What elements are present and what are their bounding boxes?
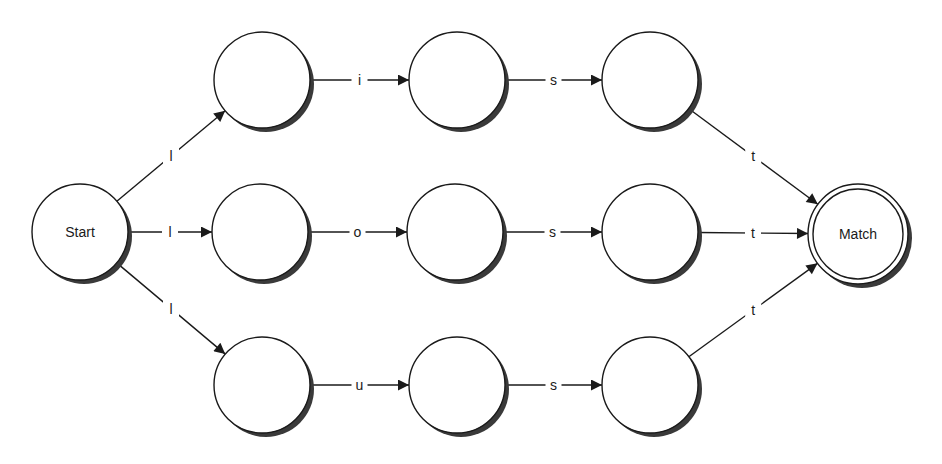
transition-edge: l bbox=[117, 263, 226, 354]
node-circle bbox=[214, 32, 310, 128]
start-state-node: Start bbox=[32, 184, 132, 284]
transition-edge: t bbox=[698, 224, 808, 242]
transition-edge: t bbox=[689, 263, 818, 356]
transition-edge: s bbox=[505, 376, 602, 394]
state-node bbox=[602, 32, 702, 132]
state-node bbox=[409, 337, 509, 437]
transition-label: t bbox=[751, 225, 755, 241]
node-circle bbox=[212, 184, 308, 280]
transition-label: s bbox=[550, 72, 557, 88]
node-circle bbox=[602, 32, 698, 128]
state-node bbox=[602, 184, 702, 284]
transition-label: l bbox=[168, 224, 171, 240]
transition-label: l bbox=[169, 148, 172, 164]
state-node bbox=[409, 32, 509, 132]
transition-label: s bbox=[549, 224, 556, 240]
transition-edge: l bbox=[117, 111, 225, 201]
node-circle bbox=[602, 184, 698, 280]
transition-edge: s bbox=[505, 71, 602, 89]
node-circle bbox=[214, 337, 310, 433]
node-circle bbox=[602, 337, 698, 433]
transition-edge: o bbox=[308, 223, 407, 241]
state-node bbox=[602, 337, 702, 437]
transition-label: t bbox=[751, 302, 755, 318]
transition-label: u bbox=[356, 377, 364, 393]
transition-edge: i bbox=[310, 71, 409, 89]
transition-edge: s bbox=[503, 223, 602, 241]
state-machine-diagram: lllistostust StartMatch bbox=[0, 0, 942, 464]
state-node bbox=[214, 32, 314, 132]
node-circle bbox=[409, 32, 505, 128]
node-label: Start bbox=[65, 224, 95, 240]
node-label: Match bbox=[839, 226, 877, 242]
transition-edge: u bbox=[310, 376, 409, 394]
transition-label: i bbox=[358, 72, 361, 88]
state-node bbox=[212, 184, 312, 284]
node-circle bbox=[409, 337, 505, 433]
transition-edge: t bbox=[689, 109, 818, 205]
transition-label: l bbox=[169, 301, 172, 317]
transition-label: t bbox=[751, 148, 755, 164]
transition-label: s bbox=[550, 377, 557, 393]
transition-edge: l bbox=[128, 223, 212, 241]
node-circle bbox=[407, 184, 503, 280]
accepting-state-node: Match bbox=[808, 184, 912, 288]
state-node bbox=[214, 337, 314, 437]
transition-label: o bbox=[354, 224, 362, 240]
state-node bbox=[407, 184, 507, 284]
